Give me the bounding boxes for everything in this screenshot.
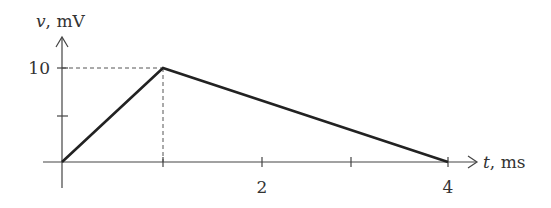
x-axis-unit: ms [501,152,526,172]
y-axis-unit: mV [56,11,85,31]
y-axis-separator: , [46,11,57,31]
x-axis-label: t, ms [483,152,526,172]
x-axis-separator: , [490,152,501,172]
x-tick-label-4: 4 [443,177,454,197]
y-axis-variable: v [36,11,46,31]
waveform-chart: 2 4 10 v, mV t, ms [0,0,551,208]
voltage-series-line [62,68,448,162]
x-tick-label-2: 2 [257,177,268,197]
y-axis-label: v, mV [36,11,86,31]
y-tick-label-10: 10 [28,58,50,78]
